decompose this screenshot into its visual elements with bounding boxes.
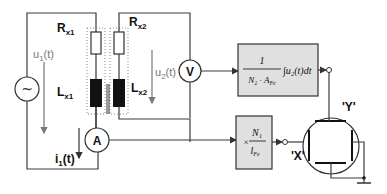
svg-text:×: × [243, 137, 249, 147]
svg-text:u2(t): u2(t) [155, 66, 176, 81]
lx2-label: Lx2 [131, 81, 148, 97]
lx1-label: Lx1 [57, 85, 74, 101]
i1-label: i1(t) [55, 128, 79, 168]
ammeter-symbol: A [93, 134, 102, 148]
ammeter: A [85, 128, 109, 152]
oscilloscope: 'Y' 'X' [291, 100, 371, 183]
inductor-lx2 [113, 79, 125, 107]
ac-source: ~ [15, 77, 39, 101]
svg-text:i1(t): i1(t) [55, 152, 75, 168]
inductor-lx1 [90, 79, 102, 107]
source-symbol: ~ [21, 81, 33, 97]
svg-text:u1(t): u1(t) [33, 48, 54, 63]
voltmeter: V [179, 60, 201, 82]
voltmeter-symbol: V [186, 65, 194, 79]
svg-text:1: 1 [260, 55, 265, 66]
x-input-label: 'X' [291, 149, 305, 163]
rx2-label: Rx2 [129, 15, 147, 31]
u2-label: u2(t) [152, 50, 176, 103]
integrator-block: 1 N₂ · AFe ∫u₂(t)dt [238, 44, 318, 96]
rx1-label: Rx1 [57, 21, 75, 37]
scale-block: × N₁ lFe [236, 116, 272, 169]
y-input-label: 'Y' [342, 100, 356, 114]
resistor-rx2 [114, 32, 124, 54]
circuit-diagram: ~ u1(t) Rx1 Rx2 Lx1 Lx2 u2(t) V 1 N₂ · A… [0, 0, 387, 194]
svg-text:∫u₂(t)dt: ∫u₂(t)dt [282, 65, 312, 77]
resistor-rx1 [91, 32, 101, 54]
svg-text:N₁: N₁ [251, 127, 262, 138]
